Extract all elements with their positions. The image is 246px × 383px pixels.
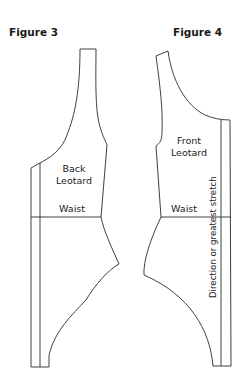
- back-waist-label: Waist: [50, 203, 94, 215]
- front-label-line1: Front: [164, 135, 214, 147]
- grain-direction-label: Direction or greatest stretch: [208, 176, 218, 298]
- front-leotard-label: Front Leotard: [164, 135, 214, 159]
- back-label-line1: Back: [50, 163, 98, 175]
- back-leotard-label: Back Leotard: [50, 163, 98, 187]
- front-waist-label: Waist: [165, 203, 203, 215]
- back-label-line2: Leotard: [50, 175, 98, 187]
- front-label-line2: Leotard: [164, 147, 214, 159]
